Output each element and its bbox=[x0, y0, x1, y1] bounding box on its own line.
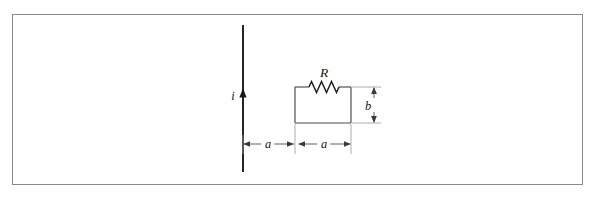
a-right-arrowhead-start-icon bbox=[298, 141, 305, 147]
resistor-symbol bbox=[309, 82, 339, 93]
distance-left-label: a bbox=[265, 137, 271, 151]
physics-figure: i R b a a bbox=[0, 0, 594, 200]
figure-canvas: i R b a a bbox=[0, 0, 594, 200]
figure-border bbox=[13, 15, 583, 185]
width-right-label: a bbox=[321, 137, 327, 151]
a-left-arrowhead-end-icon bbox=[287, 141, 294, 147]
a-left-arrowhead-start-icon bbox=[243, 141, 250, 147]
resistor-label: R bbox=[319, 65, 329, 80]
b-arrowhead-top-icon bbox=[371, 87, 377, 94]
current-label: i bbox=[231, 89, 235, 103]
height-label: b bbox=[365, 99, 371, 113]
b-arrowhead-bottom-icon bbox=[371, 116, 377, 123]
current-direction-arrow-icon bbox=[239, 88, 246, 98]
a-right-arrowhead-end-icon bbox=[344, 141, 351, 147]
